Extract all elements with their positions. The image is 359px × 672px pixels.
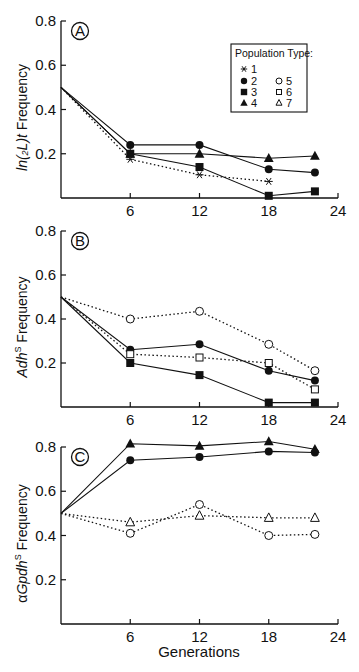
panel-letter: C <box>72 448 89 466</box>
y-tick-label: 0.6 <box>35 266 56 283</box>
open-square-marker <box>196 354 203 361</box>
y-tick-label: 0.4 <box>35 101 56 118</box>
open-circle-marker <box>196 307 204 315</box>
filled-circle-marker <box>196 340 204 348</box>
open-circle-marker <box>276 78 282 84</box>
filled-square-marker <box>265 192 273 200</box>
filled-square-marker <box>126 359 134 367</box>
svg-text:C: C <box>75 448 86 465</box>
filled-circle-marker <box>311 377 319 385</box>
series-line <box>61 513 315 522</box>
svg-text:A: A <box>75 22 85 39</box>
open-square-marker <box>127 351 134 358</box>
series-pop-4 <box>61 436 320 513</box>
filled-triangle-marker <box>195 149 205 158</box>
x-tick-label: 18 <box>260 411 277 428</box>
x-tick-label: 12 <box>191 202 208 219</box>
open-circle-marker <box>265 532 273 540</box>
filled-circle-marker <box>196 141 204 149</box>
legend-label: 1 <box>251 63 257 75</box>
figure: 0.20.40.60.86121824Aln(2L)t Frequency 0.… <box>0 0 359 672</box>
y-tick-label: 0.8 <box>35 12 56 29</box>
filled-triangle-marker <box>125 438 135 447</box>
filled-circle-marker <box>311 169 319 177</box>
panel-letter: B <box>72 232 89 250</box>
y-tick-label: 0.2 <box>35 354 56 371</box>
y-axis-title: AdhS Frequency <box>13 277 30 379</box>
filled-square-marker <box>265 399 273 407</box>
series-line <box>61 297 315 389</box>
axes: 0.20.40.60.86121824 <box>35 12 346 219</box>
legend-label: 7 <box>286 97 292 109</box>
chart-svg: 0.20.40.60.86121824Aln(2L)t Frequency 0.… <box>0 0 359 672</box>
series-line <box>61 505 315 536</box>
y-tick-label: 0.6 <box>35 56 56 73</box>
filled-circle-marker <box>241 78 247 84</box>
filled-triangle-marker <box>264 436 274 445</box>
y-tick-label: 0.4 <box>35 527 56 544</box>
y-tick-label: 0.2 <box>35 145 56 162</box>
open-square-marker <box>265 360 272 367</box>
y-axis-title: ln(2L)t Frequency <box>14 64 30 171</box>
y-tick-label: 0.8 <box>35 222 56 239</box>
filled-square-marker <box>311 187 319 195</box>
open-circle-marker <box>311 530 319 538</box>
filled-square-marker <box>241 89 247 95</box>
x-tick-label: 24 <box>330 411 347 428</box>
series-pop-7 <box>61 511 319 526</box>
series-pop-2 <box>61 447 319 513</box>
open-square-marker <box>277 90 282 95</box>
panel-letter: A <box>72 22 89 40</box>
filled-triangle-marker <box>310 151 320 160</box>
open-triangle-marker <box>264 513 273 522</box>
open-triangle-marker <box>311 513 320 522</box>
asterisk-marker <box>265 178 273 185</box>
x-axis-title: Generations <box>158 643 240 660</box>
filled-circle-marker <box>311 449 319 457</box>
asterisk-marker <box>196 171 204 178</box>
axes: 0.20.40.60.86121824 <box>35 222 346 428</box>
filled-circle-marker <box>265 165 273 173</box>
legend-title: Population Type: <box>235 47 313 59</box>
series-line <box>61 297 315 403</box>
x-tick-label: 6 <box>126 628 134 645</box>
x-tick-label: 6 <box>126 202 134 219</box>
filled-square-marker <box>126 150 134 158</box>
filled-square-marker <box>196 371 204 379</box>
series-pop-5 <box>61 297 319 375</box>
y-tick-label: 0.8 <box>35 438 56 455</box>
filled-square-marker <box>311 399 319 407</box>
series-pop-5 <box>61 501 319 540</box>
series-pop-3 <box>61 297 319 407</box>
open-square-marker <box>311 386 318 393</box>
x-tick-label: 12 <box>191 411 208 428</box>
panel-b: 0.20.40.60.86121824BAdhS Frequency <box>13 222 346 428</box>
x-tick-label: 6 <box>126 411 134 428</box>
filled-circle-marker <box>126 141 134 149</box>
open-triangle-marker <box>195 511 204 520</box>
y-tick-label: 0.4 <box>35 310 56 327</box>
x-tick-label: 24 <box>330 202 347 219</box>
series-line <box>61 442 315 514</box>
filled-circle-marker <box>196 453 204 461</box>
panel-a: 0.20.40.60.86121824Aln(2L)t Frequency <box>14 12 346 219</box>
x-tick-label: 24 <box>330 628 347 645</box>
y-axis-title: αGpdhS Frequency <box>13 484 30 602</box>
x-tick-label: 18 <box>260 202 277 219</box>
open-circle-marker <box>126 529 134 537</box>
open-circle-marker <box>265 340 273 348</box>
open-circle-marker <box>126 315 134 323</box>
y-tick-label: 0.2 <box>35 571 56 588</box>
series-pop-2 <box>61 297 319 385</box>
open-circle-marker <box>196 501 204 509</box>
legend-label: 4 <box>251 97 257 109</box>
x-tick-label: 18 <box>260 628 277 645</box>
svg-text:B: B <box>75 232 85 249</box>
series-line <box>61 451 315 513</box>
y-tick-label: 0.6 <box>35 482 56 499</box>
open-circle-marker <box>311 367 319 375</box>
filled-square-marker <box>196 163 204 171</box>
panel-c: 0.20.40.60.86121824CαGpdhS Frequency <box>13 436 346 645</box>
filled-circle-marker <box>265 447 273 455</box>
axes: 0.20.40.60.86121824 <box>35 438 346 645</box>
